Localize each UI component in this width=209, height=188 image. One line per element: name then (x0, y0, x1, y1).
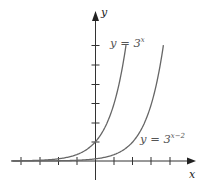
curve-3-pow-x (11, 45, 126, 161)
x-axis-arrow-icon (187, 158, 196, 165)
exponential-graph: y x y = 3x y = 3x−2 (0, 0, 209, 188)
curve2-label: y = 3x−2 (139, 132, 186, 146)
x-axis-label: x (189, 168, 196, 181)
curve1-label: y = 3x (109, 36, 145, 50)
y-axis-label: y (100, 6, 108, 19)
y-axis-arrow-icon (92, 11, 99, 21)
